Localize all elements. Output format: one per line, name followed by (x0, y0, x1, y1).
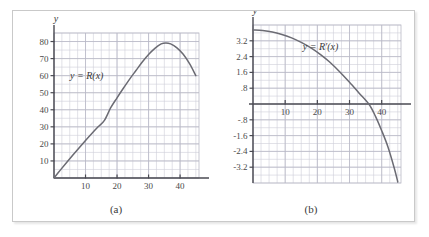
chart-b-ytick-label: -1.6 (233, 131, 248, 141)
figure-frame: 102030405060708010203040yxy = R(x) (a) 3… (12, 10, 415, 222)
chart-a-ytick-label: 40 (40, 105, 50, 115)
chart-a-y-axis-label: y (53, 13, 59, 24)
chart-a-ytick-label: 10 (40, 156, 50, 166)
chart-panel-a: 102030405060708010203040yxy = R(x) (a) (21, 11, 211, 223)
chart-a-ytick-label: 60 (40, 71, 50, 81)
chart-b-plot: 3.22.41.6.8-.8-1.6-2.4-3.210203040yxy = … (211, 11, 411, 206)
chart-a-ytick-label: 50 (40, 88, 50, 98)
chart-a-xtick-label: 40 (176, 181, 186, 191)
chart-a-ytick-label: 30 (40, 122, 50, 132)
chart-b-ytick-label: 3.2 (236, 36, 247, 46)
chart-a-ytick-label: 70 (40, 54, 50, 64)
chart-b-y-axis-label: y (252, 11, 258, 16)
chart-b-ytick-label: -2.4 (233, 146, 248, 156)
chart-a-xtick-label: 10 (81, 181, 91, 191)
chart-b-xtick-label: 20 (313, 107, 323, 117)
chart-b-ytick-label: 2.4 (236, 52, 248, 62)
chart-a-plot: 102030405060708010203040yxy = R(x) (21, 11, 211, 206)
chart-a-ytick-label: 20 (40, 139, 50, 149)
chart-a-ytick-label: 80 (40, 37, 50, 47)
chart-b-ytick-label: .8 (241, 83, 248, 93)
chart-b-ytick-label: 1.6 (236, 67, 248, 77)
chart-a-xtick-label: 30 (144, 181, 154, 191)
chart-a-caption: (a) (21, 203, 211, 215)
chart-a-curve-label: y = R(x) (69, 70, 104, 82)
chart-b-caption: (b) (211, 203, 411, 215)
chart-panel-b: 3.22.41.6.8-.8-1.6-2.4-3.210203040yxy = … (211, 11, 411, 223)
chart-b-ytick-label: -3.2 (233, 162, 247, 172)
chart-b-ytick-label: -.8 (238, 115, 248, 125)
chart-b-xtick-label: 30 (345, 107, 355, 117)
chart-b-xtick-label: 10 (281, 107, 291, 117)
chart-a-xtick-label: 20 (113, 181, 123, 191)
chart-b-xtick-label: 40 (377, 107, 387, 117)
chart-b-curve-label: y = R′(x) (302, 41, 339, 53)
